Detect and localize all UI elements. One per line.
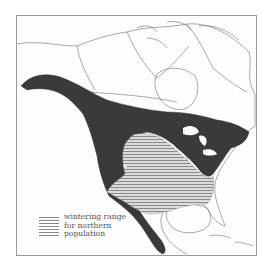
range-map: wintering range for northern population: [16, 15, 257, 256]
legend-label: wintering range for northern population: [64, 213, 126, 239]
map-legend: wintering range for northern population: [38, 213, 138, 253]
legend-line-3: population: [64, 230, 126, 239]
hatch-swatch-icon: [39, 217, 59, 236]
